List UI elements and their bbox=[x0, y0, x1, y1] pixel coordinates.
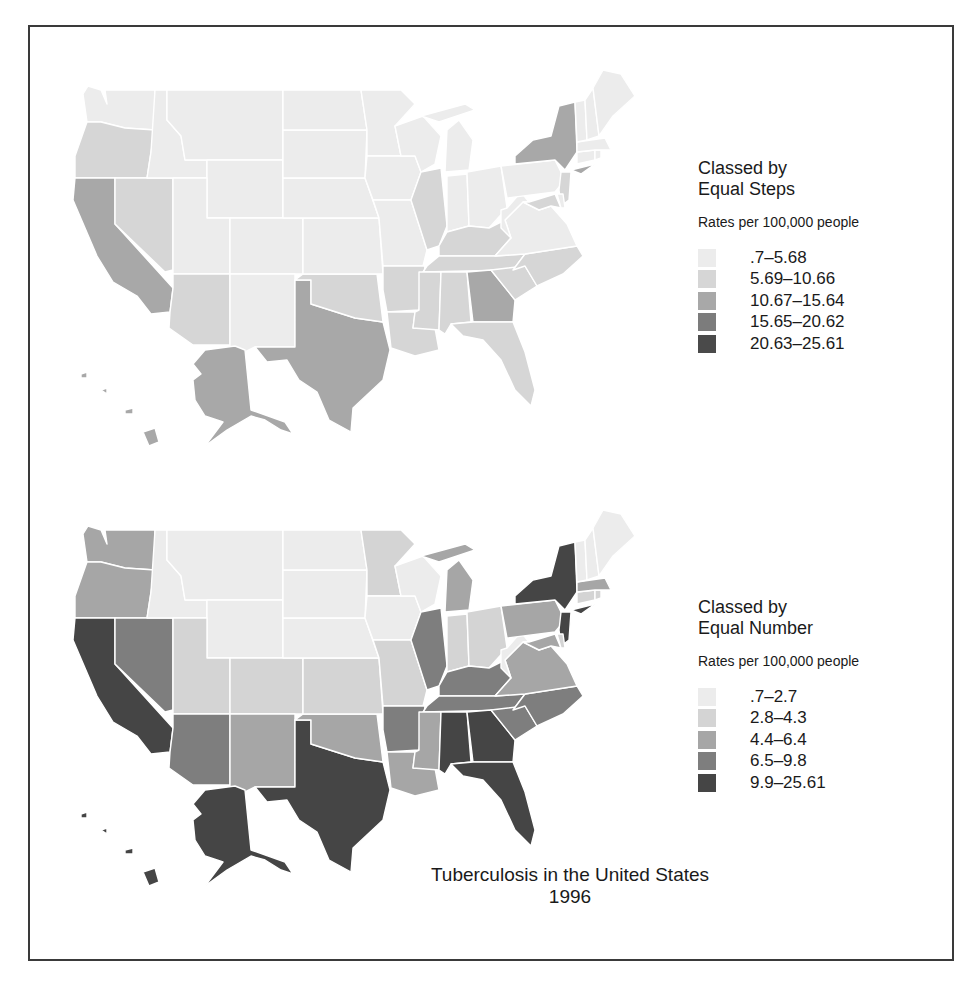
legend-swatch bbox=[698, 270, 716, 288]
legend-swatch bbox=[698, 335, 716, 353]
state-mt bbox=[167, 530, 283, 600]
legend-item: 2.8–4.3 bbox=[698, 708, 928, 730]
legend-title-line2: Equal Number bbox=[698, 618, 928, 639]
legend-title-line1: Classed by bbox=[698, 597, 928, 618]
state-ny bbox=[571, 604, 595, 614]
state-nd bbox=[283, 530, 367, 570]
legend-item: 6.5–9.8 bbox=[698, 751, 928, 773]
state-nd bbox=[283, 90, 367, 130]
legend-label: 2.8–4.3 bbox=[750, 708, 807, 728]
state-pa bbox=[501, 600, 565, 638]
state-fl bbox=[451, 322, 535, 406]
legend-swatch bbox=[698, 292, 716, 310]
legend-label: 9.9–25.61 bbox=[750, 773, 826, 793]
state-ri bbox=[595, 590, 601, 600]
state-mt bbox=[167, 90, 283, 160]
legend-label: 6.5–9.8 bbox=[750, 751, 807, 771]
state-co bbox=[230, 218, 303, 274]
legend-item: 15.65–20.62 bbox=[698, 312, 928, 334]
legend-label: 15.65–20.62 bbox=[750, 312, 845, 332]
state-wy bbox=[207, 160, 283, 218]
state-az bbox=[169, 274, 230, 345]
state-ia bbox=[365, 596, 421, 640]
state-or bbox=[75, 122, 155, 178]
legend-units: Rates per 100,000 people bbox=[698, 214, 928, 230]
state-pa bbox=[501, 160, 565, 198]
legend-swatch bbox=[698, 313, 716, 331]
legend-label: 10.67–15.64 bbox=[750, 291, 845, 311]
map-equal-number bbox=[55, 500, 695, 920]
legend-swatch bbox=[698, 709, 716, 727]
us-map-equal-number bbox=[55, 500, 695, 920]
state-sd bbox=[283, 570, 367, 618]
legend-swatch bbox=[698, 249, 716, 267]
state-ny bbox=[515, 102, 577, 170]
figure-caption: Tuberculosis in the United States 1996 bbox=[400, 864, 740, 908]
legend-swatch bbox=[698, 731, 716, 749]
legend-units: Rates per 100,000 people bbox=[698, 653, 928, 669]
state-ks bbox=[303, 658, 383, 714]
state-in bbox=[447, 614, 469, 672]
legend-label: 5.69–10.66 bbox=[750, 269, 835, 289]
caption-title: Tuberculosis in the United States bbox=[400, 864, 740, 886]
legend-item: .7–5.68 bbox=[698, 247, 928, 269]
state-or bbox=[75, 562, 155, 618]
legend-swatch bbox=[698, 752, 716, 770]
us-map-equal-steps bbox=[55, 60, 695, 480]
legend-item: 5.69–10.66 bbox=[698, 269, 928, 291]
state-in bbox=[447, 174, 469, 232]
state-sd bbox=[283, 130, 367, 178]
state-ri bbox=[595, 150, 601, 160]
state-az bbox=[169, 714, 230, 785]
state-hi bbox=[81, 812, 159, 886]
legend-title: Classed by Equal Steps bbox=[698, 158, 928, 200]
legend-item: 4.4–6.4 bbox=[698, 729, 928, 751]
legend-title-line1: Classed by bbox=[698, 158, 928, 179]
state-wy bbox=[207, 600, 283, 658]
state-ny bbox=[515, 542, 577, 610]
legend-label: 20.63–25.61 bbox=[750, 334, 845, 354]
state-ia bbox=[365, 156, 421, 200]
legend-item: 9.9–25.61 bbox=[698, 772, 928, 794]
legend-swatch bbox=[698, 688, 716, 706]
legend-title: Classed by Equal Number bbox=[698, 597, 928, 639]
state-hi bbox=[81, 372, 159, 446]
legend-item: 10.67–15.64 bbox=[698, 290, 928, 312]
state-nm bbox=[230, 714, 295, 792]
state-me bbox=[593, 510, 635, 576]
caption-year: 1996 bbox=[400, 886, 740, 908]
legend-equal-steps: Classed by Equal Steps Rates per 100,000… bbox=[698, 158, 928, 355]
legend-item: .7–2.7 bbox=[698, 686, 928, 708]
legend-label: .7–2.7 bbox=[750, 687, 797, 707]
legend-equal-number: Classed by Equal Number Rates per 100,00… bbox=[698, 597, 928, 794]
legend-swatch bbox=[698, 774, 716, 792]
map-equal-steps bbox=[55, 60, 695, 480]
legend-label: 4.4–6.4 bbox=[750, 730, 807, 750]
state-fl bbox=[451, 762, 535, 846]
legend-label: .7–5.68 bbox=[750, 248, 807, 268]
state-co bbox=[230, 658, 303, 714]
state-me bbox=[593, 70, 635, 136]
state-nm bbox=[230, 274, 295, 352]
legend-item: 20.63–25.61 bbox=[698, 333, 928, 355]
legend-items: .7–2.7 2.8–4.3 4.4–6.4 6.5–9.8 9.9–25.61 bbox=[698, 686, 928, 794]
state-ny bbox=[571, 164, 595, 174]
legend-title-line2: Equal Steps bbox=[698, 179, 928, 200]
legend-items: .7–5.68 5.69–10.66 10.67–15.64 15.65–20.… bbox=[698, 247, 928, 355]
state-ks bbox=[303, 218, 383, 274]
